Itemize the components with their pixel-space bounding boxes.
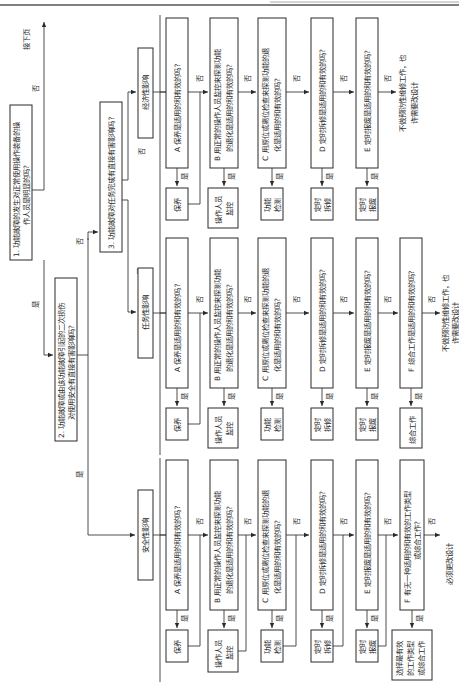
safety-no-d: 否 — [339, 517, 348, 525]
mission-q-b-l1: B 用正常的操作人员监控来探测功能 — [213, 268, 222, 381]
safety-q-b-l2: 的退化是适用的和有效的吗? — [225, 506, 234, 594]
safety-action-best-3: 或综合工作 — [417, 640, 426, 676]
mission-action-discard-2: 报废 — [368, 417, 377, 432]
mission-action-operator-1: 操作人员 — [214, 416, 223, 444]
safety-q-c-l2: 化是适用的和有效的吗? — [273, 520, 282, 594]
economic-impact-box: 经济性影响 — [138, 48, 153, 138]
economic-impact-title: 经济性影响 — [141, 75, 150, 110]
safety-action-best-2: 的工作类型 — [406, 640, 415, 676]
question-2-box: 2. 功能故障或由该功能故障引起的二次损伤 对使用安全有直接有害影响吗? — [55, 278, 77, 441]
economic-no-b: 否 — [243, 74, 252, 82]
mission-action-overhaul-2: 拆修 — [323, 417, 332, 432]
mission-q-d: D 定时拆修是适用的和有效的吗? — [318, 269, 327, 372]
safety-end-result: 必须更改设计 — [445, 542, 454, 585]
mission-no-f: 否 — [427, 295, 436, 303]
safety-yes-a: 是 — [180, 614, 189, 622]
safety-yes-f: 是 — [415, 614, 424, 622]
rcm-logic-decision-diagram: 1. 功能故障的发生对正常使用操作装备的操 作人员是明显的吗? 否 接下页 是 … — [0, 0, 459, 687]
economic-action-discard-1: 定时 — [358, 197, 367, 212]
mission-action-overhaul-1: 定时 — [313, 417, 322, 432]
economic-yes-d: 是 — [325, 172, 334, 180]
mission-action-operator-2: 监控 — [225, 421, 234, 436]
question-3-text: 3. 功能故障对任务完成有直接有害影响吗? — [107, 117, 116, 249]
safety-no-c: 否 — [292, 517, 301, 525]
mission-action-check-1: 功能 — [263, 417, 272, 432]
q3-yes-arrow — [122, 200, 136, 312]
safety-action-discard-2: 报废 — [368, 639, 377, 654]
economic-end-line2: 许需要改设计 — [410, 81, 419, 124]
economic-no-c: 否 — [292, 74, 301, 82]
safety-action-discard-1: 定时 — [358, 639, 367, 654]
q1-no-arrow — [32, 22, 44, 190]
q2-no-label: 否 — [75, 237, 84, 245]
mission-action-discard-1: 定时 — [358, 417, 367, 432]
mission-q-a: A 保养是适用的和有效的吗? — [173, 284, 182, 372]
economic-action-discard-2: 报废 — [368, 197, 377, 212]
mission-no-e: 否 — [383, 295, 392, 303]
safety-action-maintenance: 保养 — [173, 639, 182, 654]
question-1-line2: 作人员是明显的吗? — [22, 165, 31, 225]
economic-action-check-2: 检测 — [273, 198, 282, 212]
q1-no-label: 否 — [31, 84, 40, 92]
question-3-box: 3. 功能故障对任务完成有直接有害影响吗? — [100, 102, 122, 252]
safety-q-e: E 定时报废是适用的和有效的吗? — [363, 492, 372, 594]
mission-impact-box: 任务性影响 — [138, 268, 153, 358]
safety-action-operator-2: 监控 — [225, 645, 234, 660]
safety-yes-c: 是 — [275, 614, 284, 622]
mission-q-f: F 综合工作是适用的和有效的吗? — [407, 270, 416, 372]
mission-yes-e: 是 — [370, 392, 379, 400]
safety-q-d: D 定时拆修是适用的和有效的吗? — [318, 491, 327, 594]
safety-no-a: 否 — [195, 517, 204, 525]
economic-action-check-1: 功能 — [263, 197, 272, 212]
mission-impact-title: 任务性影响 — [141, 295, 150, 330]
safety-no-e: 否 — [383, 517, 392, 525]
economic-end-line1: 不做预防性维修工作，也 — [398, 54, 407, 132]
safety-q-a: A 保养是适用的和有效的吗? — [173, 506, 182, 594]
mission-q-b-l2: 的退化是适用的和有效的吗? — [225, 284, 234, 372]
economic-yes-b: 是 — [227, 172, 236, 180]
economic-branch: A 保养是适用的和有效的吗? B 用正常的操作人员监控来探测功能 的退化是适用的… — [160, 18, 419, 228]
q2-no-to-q3-arrow — [88, 232, 98, 240]
safety-impact-box: 安全性影响 — [138, 490, 153, 580]
mission-action-maintenance: 保养 — [173, 417, 182, 432]
economic-q-b-l1: B 用正常的操作人员监控来探测功能 — [213, 48, 222, 161]
mission-yes-c: 是 — [275, 392, 284, 400]
safety-q-b-l1: B 用正常的操作人员监控来探测功能 — [213, 490, 222, 603]
mission-no-c: 否 — [292, 295, 301, 303]
economic-no-d: 否 — [339, 74, 348, 82]
safety-action-operator-1: 操作人员 — [214, 640, 223, 668]
mission-branch: A 保养是适用的和有效的吗? B 用正常的操作人员监控来探测功能 的退化是适用的… — [160, 238, 459, 448]
safety-action-check-1: 功能 — [263, 639, 272, 654]
mission-end-line1: 不做预防性维修工作，也 — [441, 274, 450, 352]
safety-q-c-l1: C 用原位或离位检查来探测功能的退 — [261, 489, 270, 603]
economic-q-b-l2: 的退化是适用的和有效的吗? — [225, 64, 234, 152]
mission-action-check-2: 检测 — [273, 418, 282, 432]
mission-q-c-l1: C 用原位或离位检查来探测功能的退 — [261, 267, 270, 381]
mission-no-a: 否 — [195, 295, 204, 303]
economic-yes-a: 是 — [180, 172, 189, 180]
mission-action-combined: 综合工作 — [408, 415, 417, 444]
mission-yes-b: 是 — [227, 392, 236, 400]
economic-no-e: 否 — [383, 74, 392, 82]
safety-yes-d: 是 — [325, 614, 334, 622]
mission-q-c-l2: 化是适用的和有效的吗? — [273, 298, 282, 372]
economic-q-e: E 定时报废是适用的和有效的吗? — [363, 50, 372, 152]
safety-impact-title: 安全性影响 — [141, 518, 150, 553]
safety-action-check-2: 检测 — [273, 640, 282, 654]
economic-yes-e: 是 — [370, 172, 379, 180]
safety-action-overhaul-2: 拆修 — [323, 639, 332, 654]
economic-yes-c: 是 — [275, 172, 284, 180]
economic-q-d: D 定时拆修是适用的和有效的吗? — [318, 49, 327, 152]
q1-to-q2-arrow — [44, 260, 53, 355]
q3-no-arrow — [122, 92, 136, 180]
question-1-box: 1. 功能故障的发生对正常使用操作装备的操 作人员是明显的吗? — [10, 105, 32, 260]
economic-action-maintenance: 保养 — [173, 197, 182, 212]
q3-no-label: 否 — [137, 147, 146, 155]
safety-action-overhaul-1: 定时 — [313, 639, 322, 654]
mission-q-e: E 定时报废是适用的和有效的吗? — [363, 270, 372, 372]
economic-action-operator-2: 监控 — [225, 201, 234, 216]
safety-no-b: 否 — [243, 517, 252, 525]
q2-yes-label: 是 — [75, 470, 84, 478]
safety-q-f-l2: 或综合工作? — [413, 521, 422, 560]
economic-q-c-l2: 化是适用的和有效的吗? — [273, 78, 282, 152]
